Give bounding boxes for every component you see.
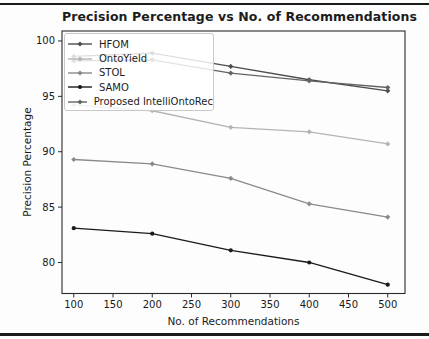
legend-label: Proposed IntelliOntoRec: [94, 96, 213, 107]
legend-label: HFOM: [99, 39, 129, 50]
figure-container: Precision Percentage vs No. of Recommend…: [0, 0, 429, 339]
x-tick-label: 200: [143, 299, 162, 310]
x-axis-label: No. of Recommendations: [62, 315, 405, 327]
legend-line-sample: [68, 82, 92, 92]
legend-label: OntoYield: [99, 53, 147, 64]
x-tick-label: 100: [64, 299, 83, 310]
data-point-marker: [385, 85, 390, 90]
data-point-marker: [228, 125, 233, 130]
y-tick-label: 90: [42, 146, 55, 157]
data-point-marker: [229, 248, 233, 252]
data-point-marker: [228, 64, 233, 69]
y-tick-label: 80: [42, 257, 55, 268]
data-point-marker: [385, 214, 390, 219]
data-point-marker: [77, 42, 82, 47]
legend-item-proposed-intelliontorec: Proposed IntelliOntoRec: [65, 95, 213, 109]
data-point-marker: [307, 201, 312, 206]
legend-item-hfom: HFOM: [65, 37, 213, 51]
legend: HFOMOntoYieldSTOLSAMOProposed IntelliOnt…: [64, 33, 214, 111]
data-point-marker: [228, 176, 233, 181]
y-axis-label: Precision Percentage: [21, 82, 33, 242]
legend-line-sample: [68, 39, 92, 49]
data-point-marker: [385, 141, 390, 146]
legend-item-stol: STOL: [65, 66, 213, 80]
data-point-marker: [77, 56, 82, 61]
bottom-border-rule: [0, 333, 429, 336]
x-tick-label: 150: [103, 299, 122, 310]
y-tick-label: 100: [36, 35, 55, 46]
x-tick-label: 350: [260, 299, 279, 310]
y-tick-label: 85: [42, 202, 55, 213]
x-tick-label: 400: [300, 299, 319, 310]
legend-item-ontoyield: OntoYield: [65, 51, 213, 65]
series-samo: [72, 226, 390, 287]
series-line: [74, 105, 388, 144]
data-point-marker: [77, 70, 82, 75]
series-line: [74, 159, 388, 217]
data-point-marker: [71, 157, 76, 162]
data-point-marker: [307, 129, 312, 134]
x-tick-label: 450: [339, 299, 358, 310]
data-point-marker: [72, 226, 76, 230]
y-tick-label: 95: [42, 91, 55, 102]
x-tick-label: 250: [182, 299, 201, 310]
data-point-marker: [150, 161, 155, 166]
x-tick-label: 300: [221, 299, 240, 310]
series-stol: [71, 157, 390, 220]
data-point-marker: [228, 70, 233, 75]
legend-label: SAMO: [99, 82, 129, 93]
legend-item-samo: SAMO: [65, 80, 213, 94]
data-point-marker: [386, 283, 390, 287]
legend-line-sample: [68, 54, 92, 64]
series-line: [74, 228, 388, 284]
legend-line-sample: [68, 68, 92, 78]
data-point-marker: [307, 260, 311, 264]
data-point-marker: [77, 99, 82, 104]
legend-label: STOL: [99, 67, 125, 78]
x-tick-label: 500: [378, 299, 397, 310]
data-point-marker: [78, 85, 82, 89]
data-point-marker: [150, 232, 154, 236]
legend-line-sample: [68, 97, 87, 107]
